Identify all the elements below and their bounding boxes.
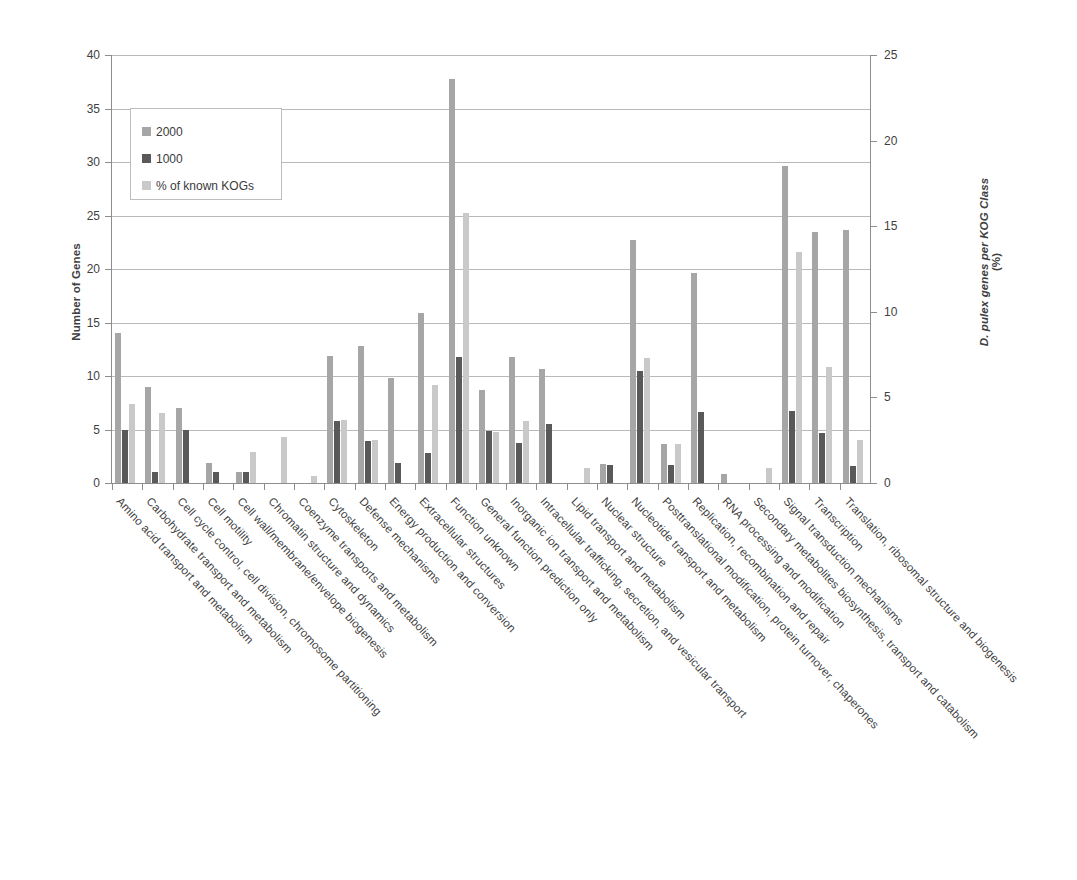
x-axis-category-label: Coenzyme transports and metabolism — [296, 495, 440, 649]
chart-canvas: Number of Genes D. pulex genes per KOG C… — [0, 0, 1077, 880]
x-axis-category-labels: Amino acid transport and metabolismCarbo… — [0, 0, 1077, 880]
x-axis-category-label: Secondary metabolites biosynthesis, tran… — [751, 495, 981, 741]
